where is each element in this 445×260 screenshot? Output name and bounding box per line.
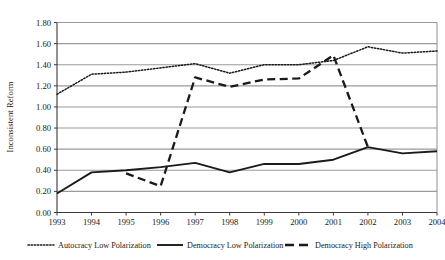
x-tick-label: 2004 [428, 217, 445, 227]
y-tick-label: 0.40 [36, 165, 51, 175]
y-tick-label: 1.40 [36, 60, 51, 70]
x-tick-label: 1999 [256, 217, 273, 227]
chart-container: 0.000.200.400.600.801.001.201.401.601.80… [0, 0, 445, 260]
y-tick-label: 1.80 [36, 18, 51, 28]
x-tick-label: 2001 [325, 217, 342, 227]
y-tick-label: 0.80 [36, 123, 51, 133]
x-tick-label: 1996 [152, 217, 170, 227]
y-tick-label: 0.00 [36, 208, 51, 218]
chart-legend: Autocracy Low PolarizationDemocracy Low … [28, 241, 413, 250]
x-tick-label: 2002 [359, 217, 376, 227]
y-tick-label: 1.00 [36, 102, 51, 112]
x-tick-label: 1993 [48, 217, 65, 227]
legend-label: Autocracy Low Polarization [58, 241, 151, 250]
y-axis-title: Inconsistent Reform [5, 81, 15, 152]
x-tick-label: 2000 [290, 217, 307, 227]
inconsistent-reform-line-chart: 0.000.200.400.600.801.001.201.401.601.80… [0, 0, 445, 260]
x-tick-label: 1994 [83, 217, 101, 227]
y-tick-label: 1.20 [36, 81, 51, 91]
y-tick-label: 1.60 [36, 39, 51, 49]
legend-label: Democracy Low Polarization [187, 241, 283, 250]
x-tick-label: 2003 [394, 217, 411, 227]
y-tick-label: 0.20 [36, 186, 51, 196]
y-tick-label: 0.60 [36, 144, 51, 154]
x-tick-label: 1998 [221, 217, 238, 227]
x-tick-label: 1995 [117, 217, 134, 227]
x-tick-label: 1997 [187, 217, 205, 227]
legend-label: Democracy High Polarization [315, 241, 413, 250]
